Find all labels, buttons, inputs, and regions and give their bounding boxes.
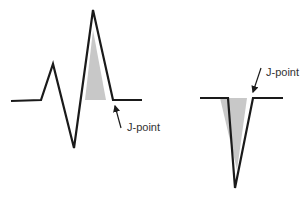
j-point-label: J-point [266,66,299,78]
upright-complex-panel: J-point [11,10,160,148]
ecg-waveform [11,10,142,148]
j-point-arrow-icon [253,68,261,92]
j-point-arrow-icon [115,106,121,128]
j-point-label: J-point [127,121,160,133]
inverted-complex-panel: J-point [200,66,299,188]
ecg-diagram: J-point J-point [0,0,305,202]
